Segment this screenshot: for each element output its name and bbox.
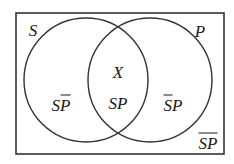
region-not-s-p-label: SP xyxy=(164,95,183,114)
region-not-s-p-p: P xyxy=(172,96,182,115)
region-s-not-p-p-overlined: P xyxy=(60,95,70,114)
region-s-not-p-s: S xyxy=(52,96,61,115)
universe-rectangle xyxy=(16,13,224,154)
set-p-label: P xyxy=(195,23,205,40)
set-s-label: S xyxy=(29,22,38,39)
set-s-circle xyxy=(24,18,148,142)
intersection-x-marker: X xyxy=(113,64,123,81)
region-s-not-p-label: SP xyxy=(52,95,71,114)
region-not-s-not-p-label: SP xyxy=(199,133,218,152)
region-not-s-not-p-overlined: SP xyxy=(199,133,218,152)
set-p-circle xyxy=(88,18,212,142)
region-not-s-p-s-overlined: S xyxy=(164,95,173,114)
region-s-and-p-label: SP xyxy=(109,95,128,112)
